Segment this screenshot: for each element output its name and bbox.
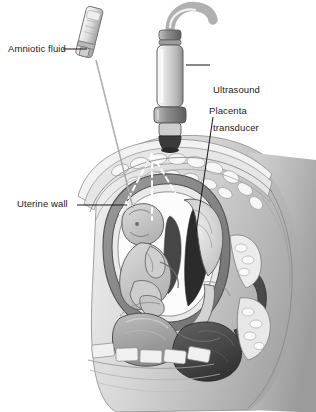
label-ultrasound-line1: Ultrasound [213,84,260,97]
label-uterine-wall: Uterine wall [17,198,68,211]
label-ultrasound-line2: transducer [213,122,260,135]
label-amniotic-fluid: Amniotic fluid [8,43,66,56]
illustration-canvas: Amniotic fluid Ultrasound transducer Pla… [0,0,316,412]
label-placenta: Placenta [209,105,247,118]
ultrasound-transducer [154,6,213,153]
